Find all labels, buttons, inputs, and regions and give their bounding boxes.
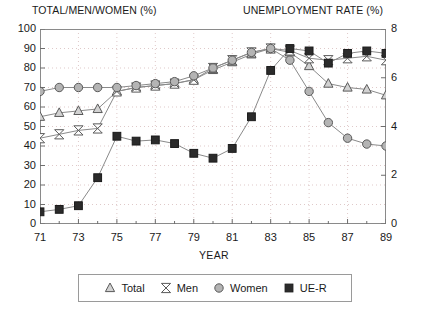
square-marker — [363, 47, 371, 55]
square-marker — [55, 205, 63, 213]
legend-label: Total — [121, 282, 144, 294]
square-marker — [94, 174, 102, 182]
bowtie-marker — [161, 283, 170, 292]
square-marker — [324, 59, 332, 67]
square-marker — [171, 140, 179, 148]
y-right-tick-label: 6 — [391, 71, 417, 83]
square-marker — [228, 145, 236, 153]
square-marker — [305, 47, 313, 55]
square-marker — [285, 284, 293, 292]
chart-legend: TotalMenWomenUE-R — [78, 274, 352, 302]
circle-marker — [247, 48, 255, 56]
x-tick-label: 89 — [371, 231, 401, 243]
square-marker — [151, 136, 159, 144]
circle-marker — [382, 142, 386, 150]
triangle-up-marker — [324, 79, 333, 88]
y-right-tick-label: 2 — [391, 168, 417, 180]
triangle-up-marker — [93, 104, 102, 113]
square-marker — [190, 149, 198, 157]
legend-label: UE-R — [300, 282, 327, 294]
y-right-tick-label: 4 — [391, 120, 417, 132]
square-marker — [363, 47, 371, 55]
y-left-tick-label: 80 — [8, 61, 36, 73]
legend-item-women[interactable]: Women — [205, 281, 275, 295]
square-marker — [286, 45, 294, 53]
circle-marker — [228, 56, 236, 64]
circle-marker — [55, 83, 63, 91]
legend-item-ue-r[interactable]: UE-R — [275, 281, 334, 295]
x-tick-label: 73 — [63, 231, 93, 243]
square-marker — [209, 154, 217, 162]
y-left-tick-label: 40 — [8, 139, 36, 151]
square-marker — [248, 113, 256, 121]
circle-marker — [215, 284, 223, 292]
left-axis-title: TOTAL/MEN/WOMEN (%) — [32, 4, 157, 16]
square-marker — [55, 205, 63, 213]
circle-marker — [209, 64, 217, 72]
right-axis-title: UNEMPLOYMENT RATE (%) — [243, 4, 383, 16]
circle-marker — [266, 44, 274, 52]
circle-marker — [286, 56, 294, 64]
circle-marker — [151, 79, 159, 87]
circle-marker — [305, 87, 313, 95]
legend-label: Men — [177, 282, 198, 294]
circle-marker — [40, 87, 44, 95]
circle-marker — [343, 134, 351, 142]
circle-marker — [382, 142, 386, 150]
square-marker — [113, 132, 121, 140]
square-marker — [209, 154, 217, 162]
square-marker — [382, 49, 386, 57]
square-marker — [344, 49, 352, 57]
circle-marker — [151, 79, 159, 87]
y-left-tick-label: 100 — [8, 22, 36, 34]
circle-marker — [305, 87, 313, 95]
square-marker — [228, 145, 236, 153]
square-marker — [324, 59, 332, 67]
circle-marker — [212, 281, 226, 295]
square-marker — [190, 149, 198, 157]
legend-item-men[interactable]: Men — [152, 281, 205, 295]
square-marker — [132, 137, 140, 145]
y-left-tick-label: 60 — [8, 100, 36, 112]
triangle-up-marker — [103, 281, 117, 295]
circle-marker — [132, 81, 140, 89]
series-line-total — [40, 49, 386, 117]
x-tick-label: 71 — [25, 231, 55, 243]
legend-label: Women — [230, 282, 268, 294]
square-marker — [285, 284, 293, 292]
square-marker — [382, 49, 386, 57]
circle-marker — [40, 87, 44, 95]
circle-marker — [324, 118, 332, 126]
circle-marker — [266, 44, 274, 52]
triangle-up-marker — [106, 283, 115, 292]
circle-marker — [343, 134, 351, 142]
x-tick-label: 75 — [102, 231, 132, 243]
square-marker — [151, 136, 159, 144]
square-marker — [132, 137, 140, 145]
circle-marker — [132, 81, 140, 89]
x-tick-label: 87 — [333, 231, 363, 243]
legend-item-total[interactable]: Total — [96, 281, 151, 295]
y-left-tick-label: 30 — [8, 159, 36, 171]
plot-area — [40, 29, 386, 224]
y-right-tick-label: 8 — [391, 22, 417, 34]
chart-container: TOTAL/MEN/WOMEN (%) UNEMPLOYMENT RATE (%… — [0, 0, 428, 318]
square-marker — [267, 67, 275, 75]
x-tick-label: 81 — [217, 231, 247, 243]
square-marker — [40, 208, 44, 216]
circle-marker — [228, 56, 236, 64]
series-line-men — [40, 49, 386, 139]
bowtie-marker — [55, 130, 64, 139]
circle-marker — [170, 77, 178, 85]
circle-marker — [170, 77, 178, 85]
square-marker — [171, 140, 179, 148]
circle-marker — [93, 83, 101, 91]
x-tick-label: 77 — [140, 231, 170, 243]
square-marker — [113, 132, 121, 140]
circle-marker — [247, 48, 255, 56]
x-tick-label: 83 — [256, 231, 286, 243]
y-right-tick-label: 0 — [391, 217, 417, 229]
circle-marker — [74, 83, 82, 91]
y-left-tick-label: 70 — [8, 81, 36, 93]
square-marker — [40, 208, 44, 216]
